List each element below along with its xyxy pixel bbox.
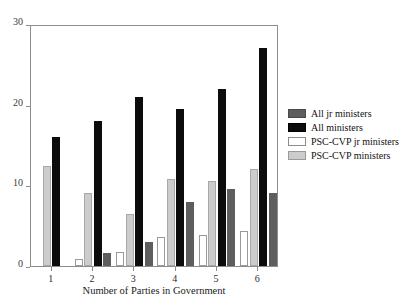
bar-group	[157, 26, 194, 266]
x-tick-label: 5	[206, 273, 226, 284]
bar	[269, 193, 277, 266]
bar	[103, 253, 111, 266]
bar	[94, 121, 102, 266]
bar	[135, 97, 143, 266]
bar	[208, 181, 216, 267]
legend-item-label: All jr ministers	[311, 108, 372, 119]
bar	[84, 193, 92, 266]
bar	[145, 242, 153, 266]
bar	[186, 202, 194, 266]
bar	[126, 214, 134, 266]
x-tick-mark	[133, 267, 134, 271]
y-tick-mark	[26, 106, 30, 107]
legend-item: PSC-CVP jr ministers	[288, 134, 413, 148]
legend-swatch-icon	[288, 137, 306, 146]
legend-item-label: PSC-CVP ministers	[311, 150, 390, 161]
bar-group	[116, 26, 153, 266]
legend-item-label: All ministers	[311, 122, 363, 133]
x-tick-label: 1	[41, 273, 61, 284]
bar	[75, 259, 83, 266]
y-axis-tick: 0	[0, 267, 30, 268]
bars-layer	[31, 26, 277, 266]
y-tick-label: 0	[18, 259, 23, 269]
bar	[157, 237, 165, 266]
y-axis-tick: 30	[0, 25, 30, 26]
y-tick-label: 20	[13, 98, 23, 108]
legend-item: All jr ministers	[288, 106, 413, 120]
bar	[227, 189, 235, 266]
x-tick-mark	[92, 267, 93, 271]
x-tick-mark	[51, 267, 52, 271]
bar	[176, 109, 184, 266]
bar	[167, 179, 175, 266]
y-axis-tick: 20	[0, 106, 30, 107]
plot-area	[30, 25, 278, 267]
x-axis-title: Number of Parties in Government	[30, 285, 278, 297]
bar	[250, 169, 258, 266]
bar	[116, 252, 124, 266]
x-tick-label: 2	[82, 273, 102, 284]
bar	[259, 48, 267, 266]
bar	[43, 166, 51, 266]
bar-chart-figure: 3020100 123456 Number of Parties in Gove…	[0, 0, 415, 308]
bar	[199, 235, 207, 266]
bar-group	[75, 26, 112, 266]
legend-swatch-icon	[288, 123, 306, 132]
bar	[218, 89, 226, 266]
y-axis-tick: 10	[0, 186, 30, 187]
bar-group	[199, 26, 236, 266]
bar	[240, 231, 248, 266]
bar-group	[240, 26, 277, 266]
legend-swatch-icon	[288, 151, 306, 160]
x-tick-label: 6	[247, 273, 267, 284]
legend-item: All ministers	[288, 120, 413, 134]
x-tick-mark	[216, 267, 217, 271]
x-tick-label: 4	[165, 273, 185, 284]
x-tick-label: 3	[123, 273, 143, 284]
y-tick-label: 30	[13, 17, 23, 27]
x-tick-mark	[175, 267, 176, 271]
chart-legend: All jr ministersAll ministersPSC-CVP jr …	[288, 106, 413, 162]
y-tick-mark	[26, 186, 30, 187]
x-tick-mark	[257, 267, 258, 271]
y-tick-label: 10	[13, 178, 23, 188]
legend-item-label: PSC-CVP jr ministers	[311, 136, 399, 147]
legend-item: PSC-CVP ministers	[288, 148, 413, 162]
bar-group	[33, 26, 70, 266]
bar	[52, 137, 60, 266]
y-tick-mark	[26, 25, 30, 26]
legend-swatch-icon	[288, 109, 306, 118]
